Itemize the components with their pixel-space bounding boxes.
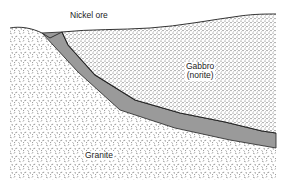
label-gabbro: Gabbro (norite) bbox=[185, 62, 215, 81]
label-nickel-ore: Nickel ore bbox=[70, 11, 108, 20]
label-granite: Granite bbox=[84, 151, 114, 160]
label-gabbro-line2: (norite) bbox=[185, 71, 215, 80]
cross-section-diagram bbox=[0, 0, 284, 185]
